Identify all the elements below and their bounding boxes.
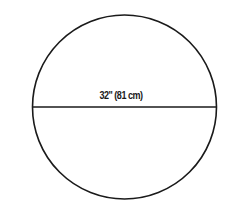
circle-diagram — [0, 0, 242, 218]
diameter-label: 32" (81 cm) — [22, 89, 220, 101]
